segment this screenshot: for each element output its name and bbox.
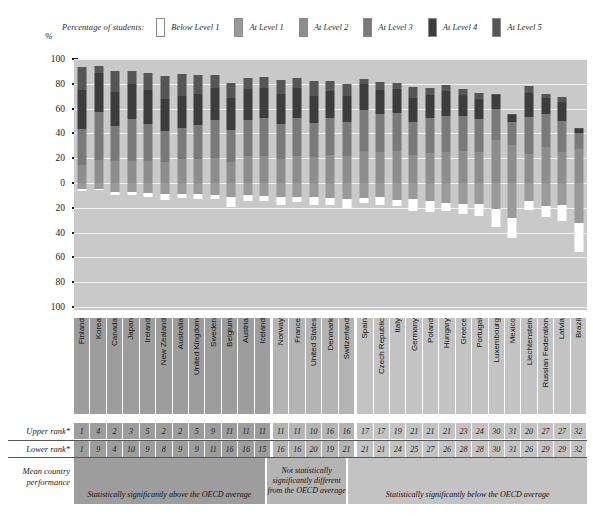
bar-segment — [210, 195, 219, 199]
country-name: France — [293, 318, 302, 347]
bar-segment — [326, 81, 335, 91]
bar-segment — [227, 162, 236, 183]
y-axis-tick: 100 — [30, 52, 78, 66]
upper-rank-value: 2 — [156, 423, 172, 439]
upper-rank-value: 21 — [439, 423, 455, 439]
bar-segment — [574, 133, 583, 149]
bar-segment — [127, 183, 136, 192]
bar-segment — [260, 156, 269, 183]
stacked-bar — [458, 89, 467, 214]
legend-item-label: At Level 4 — [443, 22, 477, 32]
bar-segment — [210, 120, 219, 158]
bar-column — [521, 59, 538, 310]
y-axis-tick-label: 60 — [56, 104, 66, 114]
bar-column — [273, 59, 290, 310]
upper-rank-value: 30 — [489, 423, 505, 439]
lower-rank-value: 26 — [439, 441, 455, 457]
lower-rank-value: 9 — [173, 441, 189, 457]
bar-segment — [458, 116, 467, 151]
legend-item-label: At Level 3 — [378, 22, 412, 32]
bar-column — [306, 59, 323, 310]
bar-segment — [260, 183, 269, 196]
country-name: Australia — [176, 318, 185, 353]
upper-rank-value: 21 — [423, 423, 439, 439]
stacked-bar — [161, 76, 170, 200]
stacked-bar — [293, 78, 302, 202]
country-label-switzerland: Switzerland — [339, 318, 355, 414]
country-label-korea: Korea — [90, 318, 106, 414]
country-label-spain: Spain — [355, 318, 373, 414]
stacked-bar — [111, 71, 120, 195]
bar-segment — [210, 75, 219, 89]
bar-segment — [260, 77, 269, 88]
upper-rank-value: 2 — [107, 423, 123, 439]
lower-rank-value: 20 — [306, 441, 322, 457]
bar-column — [388, 59, 405, 310]
lower-rank-value: 4 — [107, 441, 123, 457]
upper-rank-value: 17 — [374, 423, 390, 439]
country-label-denmark: Denmark — [322, 318, 338, 414]
bar-segment — [177, 159, 186, 183]
bar-column — [372, 59, 389, 310]
bar-segment — [425, 201, 434, 212]
bar-segment — [491, 109, 500, 140]
bar-segment — [475, 183, 484, 204]
country-name: Austria — [241, 318, 250, 347]
bar-segment — [475, 99, 484, 120]
country-label-hungary: Hungary — [439, 318, 455, 414]
bar-segment — [144, 193, 153, 197]
lower-rank-value: 30 — [489, 441, 505, 457]
y-axis-unit: % — [45, 31, 53, 41]
bar-column — [190, 59, 207, 310]
bar-segment — [442, 116, 451, 152]
bar-column — [206, 59, 223, 310]
bar-segment — [376, 197, 385, 205]
bar-series — [74, 59, 587, 310]
country-label-finland: Finland — [74, 318, 90, 414]
upper-rank-value: 27 — [554, 423, 570, 439]
bar-column — [554, 59, 571, 310]
bar-segment — [177, 183, 186, 194]
country-label-ireland: Ireland — [140, 318, 156, 414]
bar-segment — [425, 153, 434, 183]
upper-rank-value: 32 — [571, 423, 587, 439]
bar-segment — [475, 152, 484, 183]
legend-swatch — [156, 18, 165, 37]
bar-segment — [359, 151, 368, 183]
country-name: Belgium — [225, 318, 234, 351]
stacked-bar — [144, 73, 153, 197]
lower-rank-value: 21 — [339, 441, 355, 457]
lower-rank-value: 32 — [571, 441, 587, 457]
country-label-czech-republic: Czech Republic — [374, 318, 390, 414]
bar-segment — [161, 183, 170, 194]
bar-segment — [376, 183, 385, 197]
country-label-austria: Austria — [238, 318, 254, 414]
bar-segment — [458, 183, 467, 204]
bar-column — [488, 59, 505, 310]
bar-segment — [309, 183, 318, 197]
y-axis-tick: 80 — [30, 77, 78, 91]
bar-segment — [558, 102, 567, 121]
y-axis-tick-label: 0 — [60, 178, 65, 188]
significance-band-below: Statistically significantly below the OE… — [346, 458, 587, 504]
stacked-bar — [541, 94, 550, 218]
legend-item: At Level 2 — [299, 18, 348, 37]
upper-rank-value: 21 — [406, 423, 422, 439]
upper-rank-value: 4 — [90, 423, 106, 439]
bar-segment — [260, 118, 269, 156]
bar-segment — [94, 160, 103, 183]
lower-rank-value: 15 — [255, 441, 271, 457]
country-label-canada: Canada — [107, 318, 123, 414]
bar-segment — [276, 183, 285, 197]
upper-rank-value: 11 — [222, 423, 238, 439]
bar-segment — [127, 161, 136, 183]
bar-segment — [458, 95, 467, 116]
bar-segment — [293, 156, 302, 183]
country-name: Denmark — [326, 318, 335, 354]
country-label-new-zealand: New Zealand — [156, 318, 172, 414]
lower-rank-value: 19 — [322, 441, 338, 457]
upper-rank-value: 1 — [74, 423, 90, 439]
lower-rank-row: 1941098991116161516162019212121242527262… — [74, 441, 587, 457]
bar-segment — [475, 204, 484, 216]
y-axis-tick: 40 — [30, 226, 78, 240]
